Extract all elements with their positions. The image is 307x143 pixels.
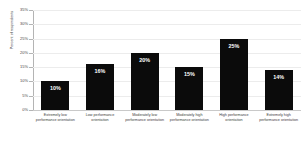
y-axis-tick-mark (29, 39, 33, 40)
x-axis-tick-labels: Extremely low performance orientationLow… (33, 113, 301, 143)
bar-slot: 20% (122, 10, 167, 110)
y-axis-tick-label: 30% (2, 22, 28, 26)
bar-slot: 15% (167, 10, 212, 110)
bar-value-label: 10% (50, 85, 61, 91)
bar[interactable]: 14% (265, 70, 293, 110)
y-axis-tick-mark (29, 96, 33, 97)
y-axis-tick-labels: 35%30%25%20%15%10%5%0% (0, 0, 28, 143)
x-axis-tick-label: High performance orientation (212, 113, 257, 123)
y-axis-tick-mark (29, 67, 33, 68)
y-axis-tick-label: 0% (2, 108, 28, 112)
y-axis-tick-mark (29, 81, 33, 82)
x-axis-tick-label: Low performance orientation (78, 113, 123, 123)
bar-value-label: 15% (184, 71, 195, 77)
bar-value-label: 20% (139, 57, 150, 63)
y-axis-tick-label: 35% (2, 8, 28, 12)
plot-area: 10%16%20%15%25%14% (33, 10, 301, 110)
bar-slot: 16% (78, 10, 123, 110)
y-axis-tick-label: 15% (2, 65, 28, 69)
bar-value-label: 25% (229, 43, 240, 49)
y-axis-tick-mark (29, 10, 33, 11)
gridline (33, 110, 301, 111)
bar-value-label: 16% (95, 68, 106, 74)
y-axis-tick-label: 10% (2, 79, 28, 83)
y-axis-tick-label: 25% (2, 37, 28, 41)
bar[interactable]: 10% (41, 81, 69, 110)
chart-title: Performance orientation (0, 0, 307, 2)
bar-slot: 25% (212, 10, 257, 110)
bar[interactable]: 15% (175, 67, 203, 110)
y-axis-tick-mark (29, 24, 33, 25)
y-axis-tick-label: 5% (2, 94, 28, 98)
bar-slot: 10% (33, 10, 78, 110)
bar[interactable]: 20% (131, 53, 159, 110)
x-axis-tick-label: Moderately high performance orientation (167, 113, 212, 123)
x-axis-tick-label: Extremely high performance orientation (256, 113, 301, 123)
y-axis-tick-mark (29, 110, 33, 111)
x-axis-tick-label: Extremely low performance orientation (33, 113, 78, 123)
x-axis-tick-label: Moderately low performance orientation (122, 113, 167, 123)
bar-chart: Performance orientation Percent of respo… (0, 0, 307, 143)
bar[interactable]: 16% (86, 64, 114, 110)
y-axis-tick-label: 20% (2, 51, 28, 55)
bar-value-label: 14% (273, 74, 284, 80)
bar[interactable]: 25% (220, 39, 248, 110)
y-axis-tick-mark (29, 53, 33, 54)
bar-slot: 14% (256, 10, 301, 110)
